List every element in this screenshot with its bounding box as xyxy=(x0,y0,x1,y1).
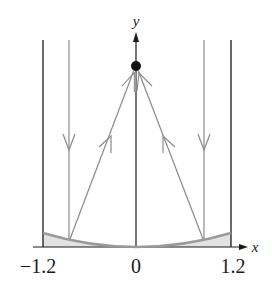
x-tick-label: 0 xyxy=(131,255,141,277)
parabolic-reflector-diagram: y x −1.2 0 1.2 xyxy=(0,0,272,283)
x-axis-arrow-icon xyxy=(239,244,248,250)
x-axis-label: x xyxy=(251,239,259,255)
up-arrow-icon xyxy=(99,136,111,153)
reflected-ray-left xyxy=(70,70,134,239)
x-tick-label: −1.2 xyxy=(20,255,56,277)
x-tick-label: 1.2 xyxy=(221,255,246,277)
y-axis-label: y xyxy=(131,13,140,29)
y-axis-arrow-icon xyxy=(133,32,139,42)
reflected-ray-right xyxy=(138,70,203,239)
focus-point xyxy=(131,61,141,71)
